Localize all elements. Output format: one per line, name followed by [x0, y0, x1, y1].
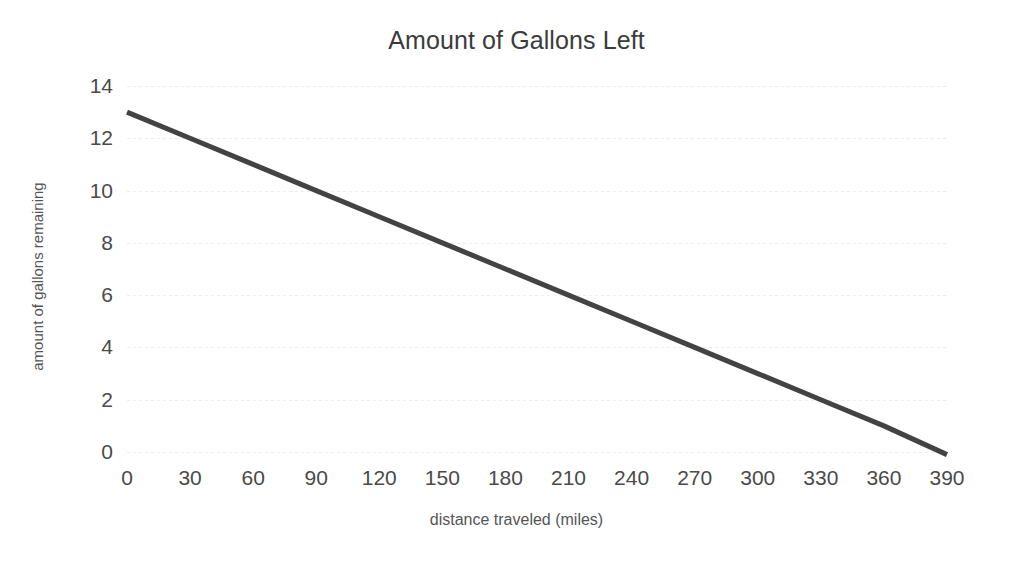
y-tick-label-14: 14 — [61, 75, 113, 96]
y-tick-label-12: 12 — [61, 127, 113, 148]
gridline-y-0 — [127, 452, 947, 453]
y-tick-label-10: 10 — [61, 180, 113, 201]
gridline-y-14 — [127, 86, 947, 87]
y-tick-label-2: 2 — [61, 389, 113, 410]
line-chart: Amount of Gallons Left amount of gallons… — [0, 0, 1033, 567]
y-tick-label-6: 6 — [61, 284, 113, 305]
y-tick-label-8: 8 — [61, 232, 113, 253]
gridline-y-4 — [127, 347, 947, 348]
y-axis-title: amount of gallons remaining — [30, 177, 45, 377]
gridline-y-12 — [127, 138, 947, 139]
x-tick-label-390: 390 — [907, 466, 987, 490]
gridline-y-6 — [127, 295, 947, 296]
y-axis-tick-labels: 02468101214 — [51, 86, 113, 452]
x-axis-title: distance traveled (miles) — [0, 511, 1033, 529]
series-line-gallons-remaining — [127, 112, 947, 454]
x-axis-tick-labels: 0306090120150180210240270300330360390 — [127, 466, 947, 494]
y-tick-label-0: 0 — [61, 441, 113, 462]
gridline-y-2 — [127, 400, 947, 401]
chart-title: Amount of Gallons Left — [0, 26, 1033, 55]
gridline-y-10 — [127, 191, 947, 192]
plot-area — [127, 86, 947, 452]
y-tick-label-4: 4 — [61, 336, 113, 357]
gridline-y-8 — [127, 243, 947, 244]
